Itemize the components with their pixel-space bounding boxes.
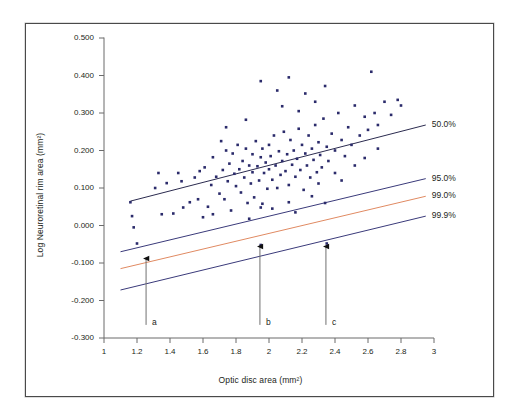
x-tick-label: 1.4	[155, 347, 185, 356]
data-point	[132, 226, 135, 229]
y-tick-label: 0.100	[48, 183, 94, 192]
data-point	[340, 139, 343, 142]
data-point	[289, 139, 292, 142]
data-point	[261, 202, 264, 205]
data-point	[266, 187, 269, 190]
data-point	[291, 163, 294, 166]
data-point	[251, 171, 254, 174]
data-point	[269, 155, 272, 158]
data-point	[256, 165, 259, 168]
data-point	[165, 182, 168, 185]
data-point	[231, 152, 234, 155]
data-point	[207, 205, 210, 208]
data-point	[340, 179, 343, 182]
x-axis-title: Optic disc area (mm²)	[0, 375, 521, 385]
data-point	[296, 157, 299, 160]
data-point	[136, 242, 139, 245]
data-point	[230, 209, 233, 212]
data-point	[288, 184, 291, 187]
data-point	[210, 184, 213, 187]
percentile-label: 50.0%	[432, 119, 456, 129]
data-point	[241, 160, 244, 163]
data-point	[271, 178, 274, 181]
data-point	[193, 176, 196, 179]
data-point	[157, 172, 160, 175]
data-point	[129, 201, 132, 204]
data-point	[202, 216, 205, 219]
x-tick-label: 2.8	[386, 347, 416, 356]
data-point	[248, 217, 251, 220]
data-point	[276, 89, 279, 92]
data-point	[228, 162, 231, 165]
data-point	[396, 99, 399, 102]
x-tick-label: 2.2	[287, 347, 317, 356]
annotation-label-c: c	[332, 317, 336, 327]
data-point	[278, 150, 281, 153]
data-point	[367, 129, 370, 132]
x-tick-label: 1.6	[188, 347, 218, 356]
data-point	[264, 161, 267, 164]
data-point	[283, 130, 286, 133]
data-point	[223, 198, 226, 201]
data-point	[400, 104, 403, 107]
data-point	[238, 168, 241, 171]
x-tick-label: 1.8	[221, 347, 251, 356]
data-point	[245, 118, 248, 121]
data-point	[189, 201, 192, 204]
data-point	[259, 156, 262, 159]
data-point	[276, 187, 279, 190]
data-point	[327, 160, 330, 163]
data-point	[334, 172, 337, 175]
data-point	[344, 155, 347, 158]
data-point	[255, 140, 258, 143]
data-point	[226, 180, 229, 183]
y-tick-label: -0.300	[48, 333, 94, 342]
data-point	[263, 172, 266, 175]
data-point	[294, 211, 297, 214]
data-point	[373, 112, 376, 115]
y-tick-label: 0.500	[48, 33, 94, 42]
x-tick-label: 2	[254, 347, 284, 356]
data-point	[225, 149, 228, 152]
y-tick-label: 0.300	[48, 108, 94, 117]
y-axis-title: Log Neuroretinal rim area (mm²)	[35, 95, 45, 295]
data-point	[160, 213, 163, 216]
data-point	[279, 174, 282, 177]
data-point	[236, 144, 239, 147]
data-point	[271, 207, 274, 210]
data-point	[390, 114, 393, 117]
data-point	[131, 215, 134, 218]
data-point	[309, 176, 312, 179]
data-point	[197, 198, 200, 201]
data-point	[222, 169, 225, 172]
data-point	[182, 206, 185, 209]
data-point	[297, 127, 300, 130]
data-point	[334, 149, 337, 152]
data-point	[225, 126, 228, 129]
data-point	[337, 112, 340, 115]
annotation-label-a: a	[152, 317, 157, 327]
data-point	[288, 201, 291, 204]
data-point	[243, 176, 246, 179]
data-point	[317, 182, 320, 185]
data-point	[314, 124, 317, 127]
data-point	[233, 172, 236, 175]
data-point	[302, 189, 305, 192]
reference-line-99-0%	[121, 196, 426, 268]
data-point	[259, 80, 262, 83]
data-point	[312, 159, 315, 162]
data-point	[377, 124, 380, 127]
data-point	[319, 154, 322, 157]
data-point	[235, 185, 238, 188]
percentile-label: 99.9%	[432, 210, 456, 220]
x-tick-label: 3	[419, 347, 449, 356]
data-point	[304, 152, 307, 155]
data-point	[383, 100, 386, 103]
data-point	[347, 126, 350, 129]
data-point	[324, 85, 327, 88]
data-point	[301, 144, 304, 147]
data-point	[363, 157, 366, 160]
data-point	[251, 153, 254, 156]
data-point	[281, 105, 284, 108]
data-point	[311, 195, 314, 198]
